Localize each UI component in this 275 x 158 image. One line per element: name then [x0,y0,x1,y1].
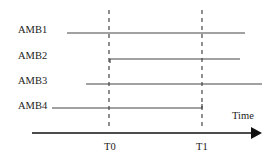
marker-label-t0: T0 [104,141,116,152]
time-axis-label: Time [232,110,254,121]
signal-label-amb4: AMB4 [18,100,48,111]
timing-diagram: AMB1 AMB2 AMB3 AMB4 Time T0 T1 [0,0,275,158]
marker-label-t1: T1 [196,141,208,152]
signal-line-amb2 [110,59,240,63]
time-axis-arrowhead [251,127,262,139]
signal-line-amb4 [52,104,202,108]
signal-label-amb3: AMB3 [18,75,47,86]
signal-label-amb2: AMB2 [18,50,47,61]
signal-label-amb1: AMB1 [18,24,47,35]
